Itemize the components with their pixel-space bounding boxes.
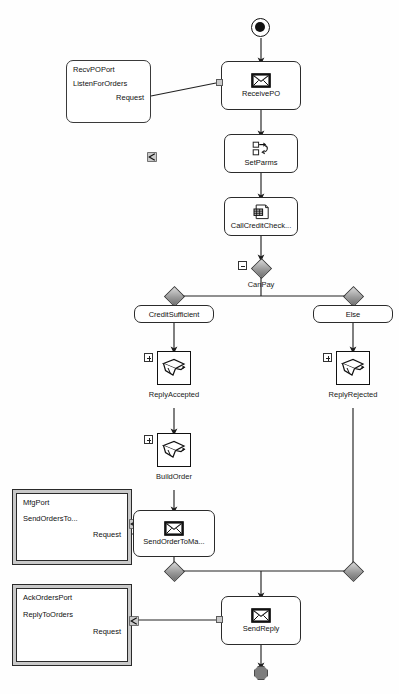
branch-label: CreditSufficient bbox=[149, 310, 200, 319]
activity-label: ReplyAccepted bbox=[139, 390, 209, 399]
activity-call-credit-check[interactable]: CallCreditCheck... bbox=[224, 197, 298, 236]
port-message: Request bbox=[23, 524, 121, 540]
port-operation: SendOrdersTo... bbox=[23, 508, 121, 524]
scope-icon bbox=[161, 357, 187, 379]
port-name: MfgPort bbox=[23, 498, 121, 508]
port-recv-po-port[interactable]: RecvPOPort ListenForOrders Request bbox=[66, 60, 151, 123]
decision-label: CanPay bbox=[231, 280, 291, 289]
branch-else[interactable]: Else bbox=[313, 305, 393, 323]
port-message: Request bbox=[23, 620, 121, 637]
port-connector-chevron-icon bbox=[129, 616, 139, 626]
activity-label: ReplyRejected bbox=[318, 390, 388, 399]
activity-label: CallCreditCheck... bbox=[231, 221, 291, 230]
activity-label: SendReply bbox=[243, 624, 280, 633]
branch-credit-sufficient[interactable]: CreditSufficient bbox=[134, 305, 214, 323]
branch-label: Else bbox=[346, 310, 361, 319]
assign-icon bbox=[252, 141, 271, 157]
activity-reply-rejected[interactable] bbox=[336, 351, 370, 385]
bpel-process-canvas: RecvPOPort ListenForOrders Request Recei… bbox=[0, 0, 399, 694]
reply-accepted-expand-toggle[interactable] bbox=[144, 353, 153, 362]
port-operation: ListenForOrders bbox=[73, 75, 144, 89]
scope-icon bbox=[340, 357, 366, 379]
scope-icon bbox=[161, 439, 187, 461]
activity-set-parms[interactable]: SetParms bbox=[224, 134, 298, 173]
activity-send-reply[interactable]: SendReply bbox=[221, 596, 301, 645]
envelope-icon bbox=[164, 521, 184, 536]
port-ack-orders-port[interactable]: AckOrdersPort ReplyToOrders Request bbox=[12, 584, 132, 666]
activity-label: SetParms bbox=[245, 158, 278, 167]
port-connector-chevron-icon bbox=[147, 152, 157, 162]
invoke-icon bbox=[253, 204, 270, 220]
envelope-icon bbox=[251, 608, 271, 623]
can-pay-collapse-toggle[interactable] bbox=[238, 261, 247, 270]
send-reply-output-pin[interactable] bbox=[216, 616, 223, 623]
build-order-expand-toggle[interactable] bbox=[144, 435, 153, 444]
activity-label: BuildOrder bbox=[142, 472, 206, 481]
envelope-icon bbox=[251, 73, 271, 88]
activity-reply-accepted[interactable] bbox=[157, 351, 191, 385]
port-name: AckOrdersPort bbox=[23, 593, 121, 603]
port-name: RecvPOPort bbox=[73, 65, 144, 75]
activity-label: ReceivePO bbox=[242, 89, 280, 98]
start-node[interactable] bbox=[251, 18, 270, 37]
receive-po-input-pin[interactable] bbox=[216, 79, 223, 86]
activity-label: SendOrderToMa... bbox=[143, 537, 204, 546]
port-operation: ReplyToOrders bbox=[23, 603, 121, 620]
activity-send-order-to-mfg[interactable]: SendOrderToMa... bbox=[133, 510, 215, 557]
activity-receive-po[interactable]: ReceivePO bbox=[221, 61, 301, 110]
port-message: Request bbox=[73, 89, 144, 103]
reply-rejected-expand-toggle[interactable] bbox=[323, 353, 332, 362]
activity-build-order[interactable] bbox=[157, 433, 191, 467]
port-mfg-port[interactable]: MfgPort SendOrdersTo... Request bbox=[12, 489, 132, 565]
